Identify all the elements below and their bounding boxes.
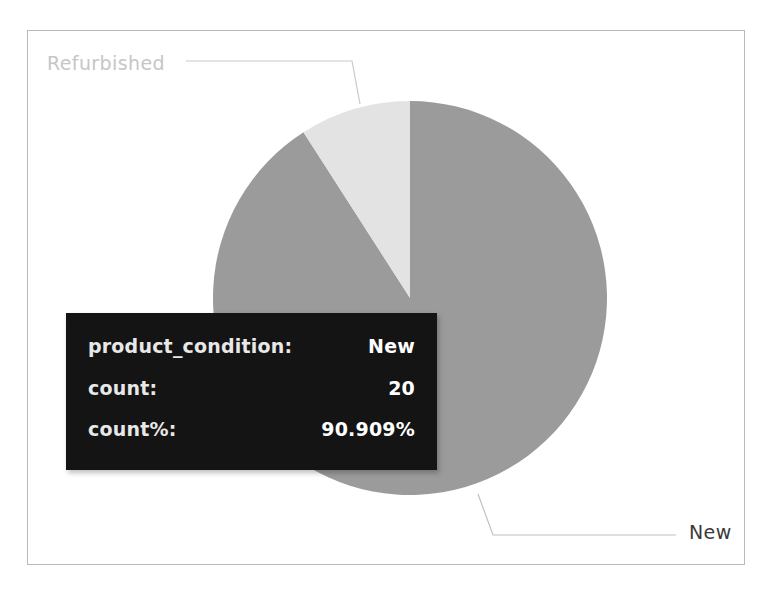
tooltip-value-product-condition: New (368, 335, 415, 357)
tooltip-row: count: 20 (88, 377, 415, 409)
tooltip-key-count-percent: count%: (88, 418, 177, 440)
tooltip-value-count: 20 (388, 377, 415, 399)
pie-chart-canvas[interactable] (0, 0, 765, 589)
pie-chart-visualization: Refurbished New product_condition: New c… (0, 0, 765, 589)
pie-label-new: New (689, 521, 732, 543)
chart-tooltip: product_condition: New count: 20 count%:… (66, 313, 437, 470)
pie-label-refurbished: Refurbished (47, 52, 165, 74)
tooltip-key-count: count: (88, 377, 157, 399)
tooltip-row: count%: 90.909% (88, 418, 415, 450)
leader-line-refurbished (186, 61, 360, 104)
tooltip-row: product_condition: New (88, 335, 415, 367)
leader-line-new (478, 494, 676, 535)
tooltip-key-product-condition: product_condition: (88, 335, 292, 357)
tooltip-value-count-percent: 90.909% (321, 418, 415, 440)
